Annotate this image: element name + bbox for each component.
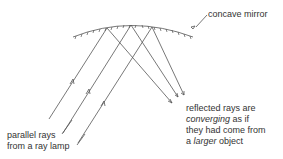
- reflected-label-line2-rest: as if: [230, 114, 249, 124]
- incident-label-line2: from a ray lamp: [7, 141, 70, 152]
- incident-ray-1: [49, 28, 107, 119]
- reflected-label-line2: converging as if: [186, 114, 249, 125]
- concave-mirror-diagram: concave mirror parallel rays from a ray …: [0, 0, 283, 159]
- mirror-pointer: [196, 15, 207, 27]
- reflected-ray-1: [107, 28, 172, 103]
- mirror-hatching: [75, 25, 191, 39]
- reflected-label-line4-pre: a: [186, 136, 194, 146]
- incident-ray-3: [78, 27, 152, 143]
- mirror-label: concave mirror: [208, 9, 268, 20]
- concave-mirror: [73, 26, 193, 38]
- emphasis-larger: larger: [194, 136, 217, 146]
- reflected-label-line1: reflected rays are: [186, 103, 256, 114]
- emphasis-converging: converging: [186, 114, 230, 124]
- incident-label-line1: parallel rays: [7, 130, 56, 141]
- lamp-pointer-2: [77, 134, 85, 145]
- reflected-ray-3: [152, 27, 184, 95]
- reflected-label-line4-rest: object: [217, 136, 244, 146]
- lamp-pointer-1: [62, 120, 72, 134]
- reflected-label-line4: a larger object: [186, 136, 243, 147]
- reflected-ray-2: [131, 25, 178, 97]
- arrow-icon: [191, 26, 195, 29]
- reflected-label-line3: they had come from: [186, 125, 266, 136]
